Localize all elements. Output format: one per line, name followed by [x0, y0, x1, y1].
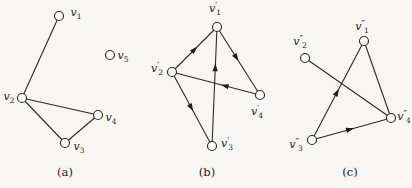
edge-v2-v4	[22, 98, 98, 115]
vertex-label-v2: v2	[4, 90, 15, 105]
vertex-vpp4	[387, 114, 396, 123]
arrowhead-vp3-vp1	[212, 63, 218, 71]
arrowhead-vp4-vp2	[220, 82, 229, 89]
vertex-label-v3: v3	[74, 140, 85, 155]
edge-vp4-vp2	[172, 72, 260, 95]
vertex-label-v5: v5	[118, 49, 129, 64]
edge-vp3-vp1	[212, 27, 217, 146]
vertex-v4	[94, 111, 103, 120]
vertex-label-vp1: v′1	[209, 2, 221, 17]
vertex-v3	[61, 139, 70, 148]
vertex-label-v4: v4	[106, 111, 117, 126]
vertex-vp3	[208, 142, 217, 151]
edge-vpp1-vpp4	[364, 41, 391, 118]
arrowhead-vpp3-vpp1	[333, 88, 341, 97]
edge-v1-v2	[22, 16, 59, 98]
arrowhead-vp1-vp4	[232, 53, 241, 62]
vertex-label-v1: v1	[71, 6, 82, 21]
vertex-vpp3	[308, 136, 317, 145]
graph-canvas	[0, 0, 412, 188]
vertex-label-vpp2: v″2	[293, 35, 306, 50]
vertex-label-vpp4: v″4	[397, 110, 410, 125]
vertex-label-vp3: v′3	[221, 137, 233, 152]
figure-canvas: v1v5v2v4v3v′1v′2v′4v′3v″1v″2v″4v″3 (a) (…	[0, 0, 412, 188]
arrowhead-vp2-vp3	[187, 103, 195, 112]
caption-c: (c)	[342, 165, 357, 179]
vertex-vpp2	[301, 54, 310, 63]
arrowhead-vpp3-vpp4	[346, 126, 355, 133]
vertex-v2	[18, 94, 27, 103]
vertex-label-vpp1: v″1	[355, 20, 368, 35]
caption-a: (a)	[57, 165, 73, 179]
edge-v2-v3	[22, 98, 65, 143]
vertex-label-vp2: v′2	[151, 62, 163, 77]
vertex-v5	[106, 51, 115, 60]
vertex-label-vp4: v′4	[251, 105, 263, 120]
vertex-vpp1	[360, 37, 369, 46]
caption-b: (b)	[199, 165, 215, 179]
vertex-vp2	[168, 68, 177, 77]
vertex-vp1	[213, 23, 222, 32]
edge-vpp2-vpp4	[305, 58, 391, 118]
vertex-label-vpp3: v″3	[289, 138, 302, 153]
vertex-vp4	[256, 91, 265, 100]
vertex-v1	[55, 12, 64, 21]
